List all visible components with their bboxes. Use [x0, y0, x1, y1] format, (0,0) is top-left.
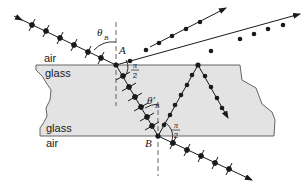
- transmitted-ray-b: [158, 136, 252, 180]
- incident-ray: [14, 16, 116, 65]
- reflected-ray-a: [116, 14, 300, 65]
- label-point-a: A: [118, 44, 126, 56]
- label-air-top: air: [44, 52, 57, 64]
- brewster-angle-diagram: air glass glass air A B θ B θ′ B π 2 π 2: [0, 0, 308, 190]
- glass-slab: [36, 65, 275, 136]
- upper-reflected-ray: [150, 8, 226, 47]
- label-theta-b: θ: [97, 26, 103, 38]
- label-theta-b-prime-sub: B: [155, 102, 160, 110]
- label-glass-top: glass: [45, 67, 71, 79]
- svg-text:2: 2: [133, 71, 138, 80]
- svg-text:2: 2: [174, 131, 179, 140]
- theta-b-arc: [94, 42, 116, 50]
- label-point-b: B: [145, 137, 152, 149]
- label-theta-b-sub: B: [104, 34, 109, 42]
- label-air-bottom: air: [46, 137, 59, 149]
- label-glass-bottom: glass: [46, 122, 72, 134]
